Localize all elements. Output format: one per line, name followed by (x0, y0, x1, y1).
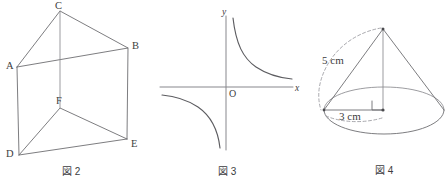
fig2-vertex-label-F: F (56, 96, 62, 107)
fig2-top-face (17, 11, 128, 67)
figures-vector-canvas (0, 0, 448, 186)
fig3-x-axis-label: x (295, 84, 299, 94)
fig2-vertex-label-A: A (6, 61, 14, 72)
fig4-base-center-point (381, 108, 384, 111)
fig2-triangular-prism (17, 11, 128, 155)
fig3-y-axis-label: y (222, 8, 226, 18)
fig4-cone (319, 28, 444, 135)
fig3-origin-label: O (229, 89, 236, 99)
fig2-edge-AD (17, 67, 19, 155)
fig4-slant-height-label: 5 cm (322, 55, 344, 66)
fig4-radius-label: 3 cm (339, 111, 361, 122)
fig3-hyperbola-graph (160, 16, 293, 150)
fig2-vertex-label-E: E (131, 139, 137, 150)
fig2-bottom-face-edges (19, 108, 127, 155)
fig2-edge-BE (127, 48, 128, 139)
fig4-caption: 図 4 (375, 166, 393, 176)
fig2-vertex-label-C: C (55, 1, 62, 12)
fig2-caption: 図 2 (62, 167, 80, 177)
fig4-base-back-arc (324, 87, 444, 110)
fig4-slant-edge-right (383, 29, 444, 110)
fig4-slant-height-dashed-guide (319, 28, 381, 110)
figure-sheet: A B C D E F y x O 5 cm 3 cm 図 2 図 3 図 4 (0, 0, 448, 186)
fig2-vertex-label-B: B (132, 41, 139, 52)
fig4-right-angle-marker (372, 101, 383, 110)
fig2-edge-DE (19, 139, 127, 155)
fig3-caption: 図 3 (218, 167, 236, 177)
fig3-curve-branch-first-quadrant (233, 18, 292, 79)
fig3-curve-branch-third-quadrant (162, 95, 220, 148)
fig4-base-rim-point (323, 109, 326, 112)
fig4-apex-point (382, 28, 385, 31)
fig2-vertex-label-D: D (6, 149, 14, 160)
fig4-slant-edge-left (324, 29, 383, 110)
